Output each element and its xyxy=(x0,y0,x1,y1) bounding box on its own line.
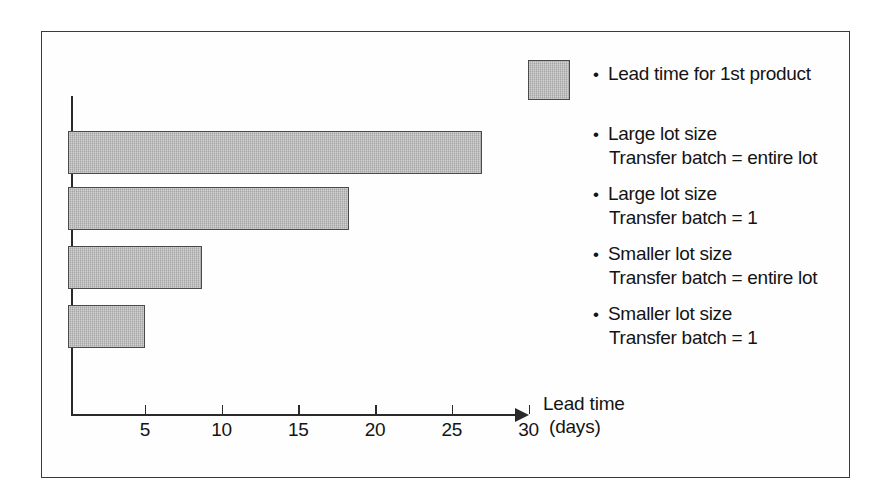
x-tick-mark xyxy=(375,405,377,414)
legend-item-lead-time-first-product: • Lead time for 1st product xyxy=(593,62,889,86)
legend-item-large-lot-entire-lot: • Large lot size Transfer batch = entire… xyxy=(593,122,889,170)
legend-bullet-icon: • xyxy=(593,243,599,267)
legend-item-line1: Large lot size xyxy=(608,182,889,206)
legend-item-line1: Large lot size xyxy=(608,122,889,146)
legend-item-line1: Smaller lot size xyxy=(608,302,889,326)
legend-item-text: Smaller lot size Transfer batch = 1 xyxy=(593,302,889,350)
legend-bullet-icon: • xyxy=(593,183,599,207)
legend-item-line2: Transfer batch = entire lot xyxy=(608,146,889,170)
legend-item-line2: Transfer batch = 1 xyxy=(608,206,889,230)
legend-bullet-icon: • xyxy=(593,123,599,147)
x-axis-title-line2: (days) xyxy=(543,415,625,438)
x-tick-label: 5 xyxy=(125,419,165,441)
x-tick-label: 10 xyxy=(202,419,242,441)
x-tick-label: 20 xyxy=(355,419,395,441)
legend-item-text: Large lot size Transfer batch = 1 xyxy=(593,182,889,230)
x-tick-mark xyxy=(529,405,531,414)
x-tick-label: 25 xyxy=(432,419,472,441)
x-axis-line xyxy=(71,414,521,416)
bar-smaller-lot-entire-lot xyxy=(68,246,202,289)
legend-bullet-icon: • xyxy=(593,63,599,87)
legend-item-line2: Transfer batch = entire lot xyxy=(608,266,889,290)
bar-large-lot-entire-lot xyxy=(68,131,482,174)
bar-large-lot-transfer-1 xyxy=(68,187,349,230)
legend-item-line2: Transfer batch = 1 xyxy=(608,326,889,350)
legend-item-text: Large lot size Transfer batch = entire l… xyxy=(593,122,889,170)
figure-container: 5 10 15 20 25 30 Lead time (days) • Lead… xyxy=(0,0,889,504)
legend-item-text: Lead time for 1st product xyxy=(593,62,889,86)
x-axis-title-line1: Lead time xyxy=(543,393,625,414)
legend-swatch-lead-time xyxy=(528,60,570,100)
x-tick-mark xyxy=(222,405,224,414)
legend-item-large-lot-transfer-1: • Large lot size Transfer batch = 1 xyxy=(593,182,889,230)
legend-item-smaller-lot-entire-lot: • Smaller lot size Transfer batch = enti… xyxy=(593,242,889,290)
x-tick-mark xyxy=(298,405,300,414)
legend-item-line1: Lead time for 1st product xyxy=(608,62,889,86)
bar-chart-plot-area: 5 10 15 20 25 30 Lead time (days) • Lead… xyxy=(0,0,889,504)
legend-item-smaller-lot-transfer-1: • Smaller lot size Transfer batch = 1 xyxy=(593,302,889,350)
x-tick-label: 15 xyxy=(278,419,318,441)
x-tick-mark xyxy=(452,405,454,414)
legend-bullet-icon: • xyxy=(593,303,599,327)
legend-item-text: Smaller lot size Transfer batch = entire… xyxy=(593,242,889,290)
x-tick-mark xyxy=(145,405,147,414)
bar-smaller-lot-transfer-1 xyxy=(68,305,145,348)
legend-item-line1: Smaller lot size xyxy=(608,242,889,266)
x-axis-title: Lead time (days) xyxy=(543,392,625,438)
